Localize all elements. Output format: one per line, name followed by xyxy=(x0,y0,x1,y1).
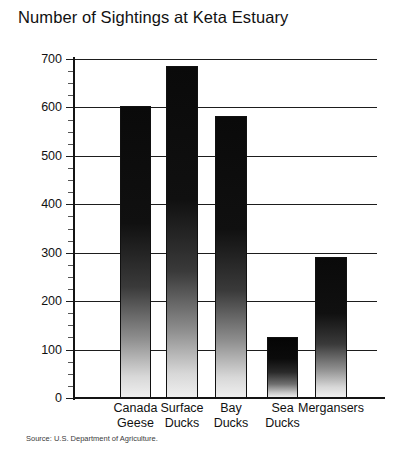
bar-sea-ducks xyxy=(267,337,298,398)
bar-surface-ducks xyxy=(166,66,198,398)
y-axis-major-tick xyxy=(66,59,73,60)
bar-mergansers xyxy=(315,257,347,398)
y-axis-tick-label: 400 xyxy=(41,197,62,211)
x-axis-line xyxy=(73,397,385,399)
y-axis-tick-label: 300 xyxy=(41,246,62,260)
y-axis-tick-label: 700 xyxy=(41,52,62,66)
y-axis-major-tick xyxy=(66,204,73,205)
bar-chart-figure: Number of Sightings at Keta Estuary 7006… xyxy=(0,0,410,459)
y-axis-tick-label: 200 xyxy=(41,294,62,308)
y-axis-tick-labels: 7006005004003002001000 xyxy=(14,59,62,398)
bar-bay-ducks xyxy=(215,116,247,398)
y-axis-tick-label: 500 xyxy=(41,149,62,163)
y-axis-line xyxy=(73,57,75,400)
bar-canada-geese xyxy=(120,106,151,398)
source-note: Source: U.S. Department of Agriculture. xyxy=(26,434,158,443)
y-axis-tick-label: 100 xyxy=(41,343,62,357)
chart-title: Number of Sightings at Keta Estuary xyxy=(18,8,288,27)
x-axis-tick-label-line: Mergansers xyxy=(293,401,369,416)
y-axis-major-tick xyxy=(66,107,73,108)
y-axis-tick-label: 600 xyxy=(41,100,62,114)
x-axis-tick-label-line: Ducks xyxy=(245,416,320,431)
gridline xyxy=(73,59,377,60)
y-axis-major-tick xyxy=(66,398,73,399)
x-axis-tick-label: Mergansers xyxy=(293,401,369,416)
plot-area xyxy=(73,59,377,398)
y-axis-major-tick xyxy=(66,253,73,254)
y-axis-major-tick xyxy=(66,301,73,302)
y-axis-major-tick xyxy=(66,156,73,157)
y-axis-major-tick xyxy=(66,350,73,351)
gridline xyxy=(73,107,377,108)
y-axis-tick-label: 0 xyxy=(55,391,62,405)
